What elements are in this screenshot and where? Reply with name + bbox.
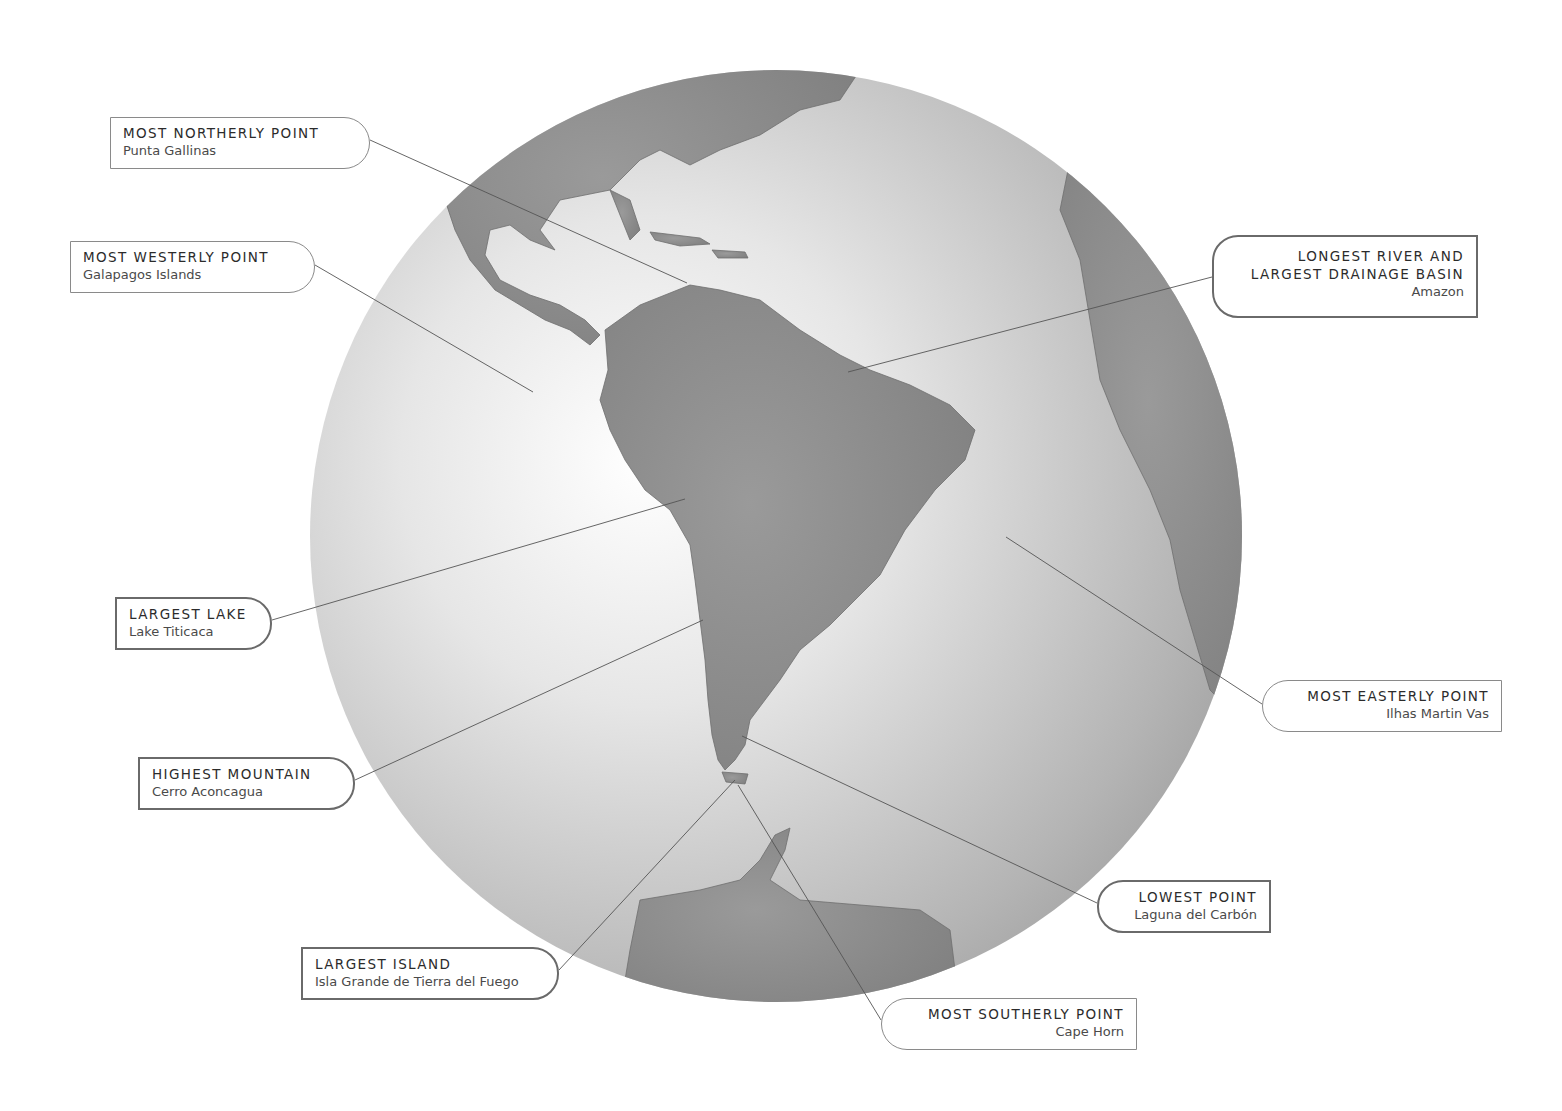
callout-title: HIGHEST MOUNTAIN xyxy=(152,765,339,783)
callout-place: Punta Gallinas xyxy=(123,142,355,160)
callout-title: LARGEST LAKE xyxy=(129,605,256,623)
callout-title: MOST NORTHERLY POINT xyxy=(123,124,355,142)
callout-largest-lake: LARGEST LAKE Lake Titicaca xyxy=(115,597,272,650)
callout-place: Ilhas Martin Vas xyxy=(1285,705,1489,723)
callout-place: Isla Grande de Tierra del Fuego xyxy=(315,973,543,991)
callout-most-easterly-point: MOST EASTERLY POINT Ilhas Martin Vas xyxy=(1262,680,1502,732)
callout-highest-mountain: HIGHEST MOUNTAIN Cerro Aconcagua xyxy=(138,757,355,810)
callout-place: Cape Horn xyxy=(904,1023,1124,1041)
callout-place: Laguna del Carbón xyxy=(1121,906,1257,924)
callout-most-westerly-point: MOST WESTERLY POINT Galapagos Islands xyxy=(70,241,315,293)
callout-lowest-point: LOWEST POINT Laguna del Carbón xyxy=(1097,880,1271,933)
callout-title: LOWEST POINT xyxy=(1121,888,1257,906)
callout-title: MOST WESTERLY POINT xyxy=(83,248,300,266)
callout-most-northerly-point: MOST NORTHERLY POINT Punta Gallinas xyxy=(110,117,370,169)
callout-place: Lake Titicaca xyxy=(129,623,256,641)
callout-title: MOST EASTERLY POINT xyxy=(1285,687,1489,705)
callout-place: Amazon xyxy=(1236,283,1464,301)
callout-title: LARGEST ISLAND xyxy=(315,955,543,973)
callout-largest-island: LARGEST ISLAND Isla Grande de Tierra del… xyxy=(301,947,559,1000)
callout-title-line-2: LARGEST DRAINAGE BASIN xyxy=(1236,265,1464,283)
callout-place: Galapagos Islands xyxy=(83,266,300,284)
callout-title: MOST SOUTHERLY POINT xyxy=(904,1005,1124,1023)
callout-longest-river: LONGEST RIVER AND LARGEST DRAINAGE BASIN… xyxy=(1212,235,1478,318)
callout-title-line-1: LONGEST RIVER AND xyxy=(1236,247,1464,265)
callout-place: Cerro Aconcagua xyxy=(152,783,339,801)
callout-most-southerly-point: MOST SOUTHERLY POINT Cape Horn xyxy=(881,998,1137,1050)
